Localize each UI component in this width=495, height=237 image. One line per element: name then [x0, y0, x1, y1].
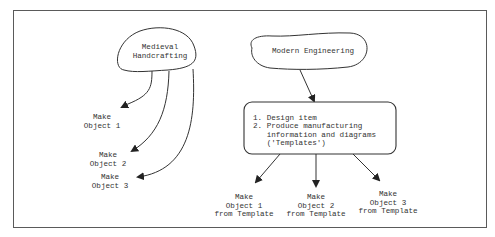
medieval-output-object-3: Make Object 3 — [88, 173, 132, 190]
medieval-output-object-1: Make Object 1 — [80, 113, 124, 130]
modern-output-object-1: Make Object 1 from Template — [210, 193, 278, 219]
arrow-modern-to-process — [300, 70, 314, 101]
modern-engineering-label: Modern Engineering — [258, 47, 368, 56]
modern-output-object-2: Make Object 2 from Template — [282, 193, 350, 219]
arrow-process-to-object-1 — [256, 154, 280, 182]
medieval-output-object-2: Make Object 2 — [86, 151, 130, 168]
arrow-medieval-to-object-3 — [138, 69, 194, 177]
medieval-handcrafting-label: Medieval Handcrafting — [130, 43, 190, 60]
arrow-process-to-object-3 — [353, 154, 379, 180]
arrow-medieval-to-object-1 — [122, 71, 152, 107]
modern-output-object-3: Make Object 3 from Template — [354, 190, 422, 216]
process-step-2: 2. Produce manufacturing information and… — [253, 122, 376, 148]
arrow-medieval-to-object-2 — [132, 71, 169, 151]
